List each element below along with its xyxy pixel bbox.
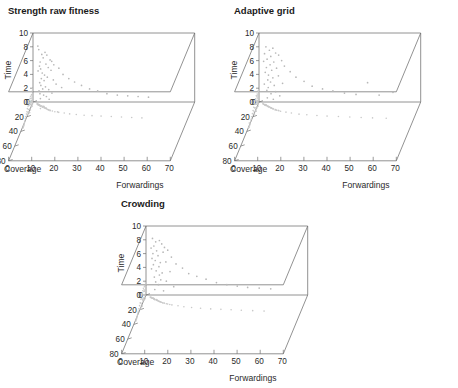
data-point-projection xyxy=(252,310,254,312)
data-point xyxy=(155,270,157,272)
data-point xyxy=(43,94,45,96)
data-point-projection xyxy=(255,98,257,100)
data-point-projection xyxy=(210,308,212,310)
data-point-projection xyxy=(326,115,328,117)
time-tick-label: 10 xyxy=(245,29,255,38)
forwardings-tick-label: 70 xyxy=(278,357,288,366)
data-point-projection xyxy=(153,297,155,299)
data-point-projection xyxy=(276,109,278,111)
time-tick-label: 4 xyxy=(136,263,141,272)
data-point-projection xyxy=(298,113,300,115)
forwardings-tick-label: 10 xyxy=(139,357,149,366)
data-point-projection xyxy=(24,120,26,122)
data-point xyxy=(271,69,273,71)
data-point-projection xyxy=(143,287,145,289)
data-point-projection xyxy=(26,114,28,116)
data-point xyxy=(152,253,154,255)
data-point xyxy=(150,247,152,249)
data-point xyxy=(41,72,43,74)
data-point-projection xyxy=(249,125,251,127)
data-point xyxy=(137,96,139,98)
data-point xyxy=(157,255,159,257)
data-point xyxy=(127,95,129,97)
data-point xyxy=(275,91,277,93)
time-axis: 0246810Time xyxy=(229,29,259,107)
forwardings-tick-label: 40 xyxy=(321,164,331,173)
data-point-projection xyxy=(257,105,259,107)
data-point xyxy=(165,261,167,263)
data-point xyxy=(173,286,175,288)
forwardings-tick-label: 50 xyxy=(232,357,242,366)
data-point xyxy=(158,266,160,268)
data-point-projection xyxy=(137,312,139,314)
data-point xyxy=(164,247,166,249)
forwardings-tick-label: 40 xyxy=(95,164,105,173)
data-point-projection xyxy=(385,118,387,120)
data-point xyxy=(155,241,157,243)
data-point xyxy=(281,60,283,62)
data-point-projection xyxy=(139,305,141,307)
data-point xyxy=(68,78,70,80)
data-point-projection xyxy=(143,289,145,291)
data-point xyxy=(44,51,46,53)
forwardings-tick-label: 20 xyxy=(275,164,285,173)
data-point xyxy=(89,88,91,90)
data-point-projection xyxy=(256,107,258,109)
data-point-projection xyxy=(160,301,162,303)
forwardings-tick-label: 60 xyxy=(368,164,378,173)
data-point xyxy=(51,92,53,94)
data-point-projection xyxy=(52,110,54,112)
forwardings-tick-label: 10 xyxy=(26,164,36,173)
data-point-projection xyxy=(28,105,30,107)
data-point xyxy=(311,85,313,87)
data-point xyxy=(267,87,269,89)
data-point xyxy=(216,282,218,284)
data-point xyxy=(378,94,380,96)
data-point-projection xyxy=(265,104,267,106)
forwardings-tick-label: 60 xyxy=(255,357,265,366)
coverage-tick-label: 40 xyxy=(9,127,19,136)
forwardings-tick-label: 50 xyxy=(345,164,355,173)
data-point xyxy=(182,267,184,269)
forwardings-tick-label: 50 xyxy=(119,164,129,173)
data-point xyxy=(38,90,40,92)
data-point-projection xyxy=(140,308,142,310)
data-point xyxy=(196,276,198,278)
data-point-projection xyxy=(278,110,280,112)
data-point-projection xyxy=(31,97,33,99)
data-point-projection xyxy=(145,284,147,286)
data-point-projection xyxy=(248,127,250,129)
data-point-projection xyxy=(306,114,308,116)
data-point xyxy=(344,92,346,94)
panel-title: Strength raw fitness xyxy=(8,5,99,16)
data-point xyxy=(40,98,42,100)
data-point xyxy=(392,91,394,93)
data-point xyxy=(161,272,163,274)
data-point-projection xyxy=(171,304,173,306)
data-point xyxy=(263,83,265,85)
time-tick-label: 4 xyxy=(23,70,28,79)
data-point xyxy=(45,63,47,65)
data-point xyxy=(289,71,291,73)
data-point-projection xyxy=(140,302,142,304)
data-point-projection xyxy=(25,116,27,118)
data-point xyxy=(45,86,47,88)
data-point-projection xyxy=(30,95,32,97)
data-point-projection xyxy=(30,109,32,111)
forwardings-tick-label: 20 xyxy=(49,164,59,173)
time-axis-label: Time xyxy=(3,60,13,79)
data-point xyxy=(279,95,281,97)
data-point xyxy=(44,74,46,76)
data-point xyxy=(151,258,153,260)
data-point xyxy=(282,83,284,85)
data-point xyxy=(37,70,39,72)
data-point xyxy=(158,284,160,286)
data-point-projection xyxy=(121,116,123,118)
data-point xyxy=(154,289,156,291)
time-tick-label: 2 xyxy=(136,277,141,286)
data-point-projection xyxy=(372,117,374,119)
data-point xyxy=(263,60,265,62)
data-point xyxy=(40,68,42,70)
coverage-tick-label: 60 xyxy=(229,142,239,151)
data-point xyxy=(42,57,44,59)
